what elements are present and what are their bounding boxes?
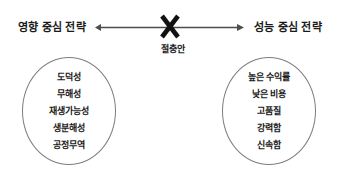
list-item: 낮은 비용 [252, 86, 287, 102]
list-item: 고품질 [257, 103, 281, 119]
list-item: 높은 수익률 [248, 69, 291, 85]
left-attribute-cluster: 도덕성 무해성 재생가능성 생분해성 공정무역 [22, 57, 116, 165]
x-cross-marker [162, 16, 178, 37]
strategy-tradeoff-diagram: 영향 중심 전략 성능 중심 전략 절충안 도덕성 무해성 재생가능성 생분해성… [0, 0, 339, 174]
list-item: 신속함 [257, 137, 281, 153]
compromise-label: 절충안 [135, 42, 210, 55]
right-pole-heading: 성능 중심 전략 [242, 18, 334, 34]
right-attribute-cluster: 높은 수익률 낮은 비용 고품질 강력함 신속함 [222, 57, 316, 165]
list-item: 공정무역 [53, 137, 85, 153]
list-item: 강력함 [257, 120, 281, 136]
list-item: 무해성 [57, 86, 81, 102]
list-item: 재생가능성 [49, 103, 89, 119]
list-item: 생분해성 [53, 120, 85, 136]
left-pole-heading: 영향 중심 전략 [6, 18, 98, 34]
list-item: 도덕성 [57, 69, 81, 85]
